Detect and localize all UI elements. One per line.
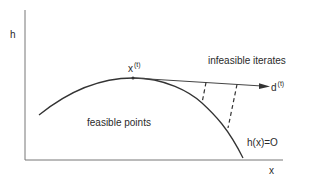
iterate-label-base: x	[128, 63, 133, 74]
x-axis-label: x	[269, 166, 274, 176]
direction-label-superscript: (t)	[278, 80, 285, 87]
constraint-label: h(x)=O	[247, 138, 278, 148]
arrowhead-icon	[259, 83, 270, 89]
infeasible-region-label: infeasible iterates	[208, 56, 286, 66]
iterate-point	[132, 77, 135, 80]
direction-label-base: d	[271, 82, 277, 93]
tangent-direction-line	[133, 78, 262, 86]
feasible-region-label: feasible points	[87, 118, 151, 128]
diagram-canvas	[0, 0, 315, 182]
iterate-label-superscript: (t)	[134, 61, 141, 68]
direction-label: d(t)	[271, 83, 284, 93]
y-axis-label: h	[10, 30, 16, 40]
iterate-label: x(t)	[128, 64, 141, 74]
correction-dashed-line-1	[202, 83, 206, 104]
correction-dashed-line-2	[228, 85, 237, 129]
